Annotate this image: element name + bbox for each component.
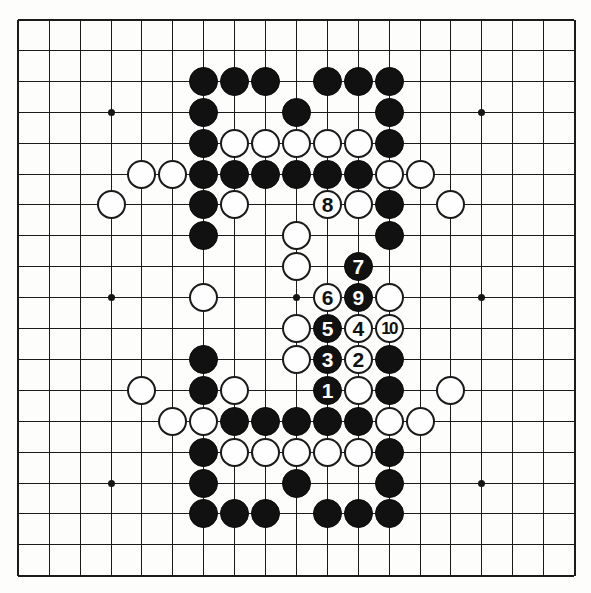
numbered-stone-7[interactable]: 7 bbox=[344, 252, 373, 281]
stone-black[interactable] bbox=[313, 499, 342, 528]
stone-black[interactable] bbox=[344, 160, 373, 189]
stone-black[interactable] bbox=[375, 345, 404, 374]
stone-black[interactable] bbox=[189, 376, 218, 405]
stone-black[interactable] bbox=[189, 129, 218, 158]
stone-white[interactable] bbox=[251, 129, 280, 158]
stone-white[interactable] bbox=[251, 438, 280, 467]
stone-white[interactable] bbox=[406, 407, 435, 436]
stone-white[interactable] bbox=[282, 314, 311, 343]
numbered-stone-6[interactable]: 6 bbox=[313, 283, 342, 312]
stone-white[interactable] bbox=[282, 252, 311, 281]
stone-white[interactable] bbox=[436, 376, 465, 405]
stone-black[interactable] bbox=[189, 190, 218, 219]
grid-line-vertical-15 bbox=[450, 20, 451, 576]
stone-black[interactable] bbox=[220, 160, 249, 189]
stone-white[interactable] bbox=[313, 129, 342, 158]
stone-black[interactable] bbox=[282, 407, 311, 436]
stone-black[interactable] bbox=[375, 98, 404, 127]
stone-white[interactable] bbox=[282, 438, 311, 467]
stone-black[interactable] bbox=[251, 160, 280, 189]
stone-black[interactable] bbox=[189, 67, 218, 96]
numbered-stone-5[interactable]: 5 bbox=[313, 314, 342, 343]
stone-white[interactable] bbox=[406, 160, 435, 189]
stone-white[interactable] bbox=[344, 376, 373, 405]
stone-black[interactable] bbox=[189, 345, 218, 374]
stone-white[interactable] bbox=[282, 129, 311, 158]
numbered-stone-8[interactable]: 8 bbox=[313, 190, 342, 219]
stone-white[interactable] bbox=[220, 190, 249, 219]
stone-black[interactable] bbox=[220, 67, 249, 96]
stone-black[interactable] bbox=[313, 407, 342, 436]
stone-number-label: 9 bbox=[353, 287, 364, 308]
stone-black[interactable] bbox=[375, 221, 404, 250]
stone-black[interactable] bbox=[282, 160, 311, 189]
stone-black[interactable] bbox=[375, 438, 404, 467]
stone-white[interactable] bbox=[97, 190, 126, 219]
stone-white[interactable] bbox=[127, 160, 156, 189]
numbered-stone-9[interactable]: 9 bbox=[344, 283, 373, 312]
star-point bbox=[108, 480, 115, 487]
numbered-stone-1[interactable]: 1 bbox=[313, 376, 342, 405]
stone-white[interactable] bbox=[313, 438, 342, 467]
star-point bbox=[478, 109, 485, 116]
stone-white[interactable] bbox=[436, 190, 465, 219]
grid-line-vertical-19 bbox=[574, 20, 576, 576]
stone-black[interactable] bbox=[251, 499, 280, 528]
numbered-stone-2[interactable]: 2 bbox=[344, 345, 373, 374]
stone-black[interactable] bbox=[189, 160, 218, 189]
stone-black[interactable] bbox=[220, 407, 249, 436]
stone-black[interactable] bbox=[313, 160, 342, 189]
stone-black[interactable] bbox=[189, 499, 218, 528]
stone-white[interactable] bbox=[158, 407, 187, 436]
stone-black[interactable] bbox=[344, 407, 373, 436]
stone-black[interactable] bbox=[375, 499, 404, 528]
stone-black[interactable] bbox=[251, 67, 280, 96]
stone-number-label: 10 bbox=[381, 320, 397, 337]
goban-grid[interactable]: 87695410321 bbox=[0, 0, 591, 593]
stone-black[interactable] bbox=[375, 469, 404, 498]
stone-black[interactable] bbox=[375, 67, 404, 96]
stone-white[interactable] bbox=[282, 221, 311, 250]
stone-number-label: 2 bbox=[353, 349, 364, 370]
grid-line-vertical-8 bbox=[234, 20, 235, 576]
numbered-stone-4[interactable]: 4 bbox=[344, 314, 373, 343]
stone-black[interactable] bbox=[189, 438, 218, 467]
stone-black[interactable] bbox=[344, 67, 373, 96]
stone-white[interactable] bbox=[375, 407, 404, 436]
star-point bbox=[108, 294, 115, 301]
stone-black[interactable] bbox=[344, 499, 373, 528]
stone-number-label: 7 bbox=[353, 256, 364, 277]
stone-number-label: 5 bbox=[322, 318, 333, 339]
go-board-diagram: 87695410321 bbox=[0, 0, 591, 593]
stone-black[interactable] bbox=[189, 98, 218, 127]
stone-black[interactable] bbox=[282, 469, 311, 498]
grid-line-vertical-6 bbox=[172, 20, 173, 576]
stone-white[interactable] bbox=[220, 438, 249, 467]
stone-white[interactable] bbox=[282, 345, 311, 374]
stone-white[interactable] bbox=[220, 129, 249, 158]
stone-number-label: 1 bbox=[322, 380, 333, 401]
stone-black[interactable] bbox=[251, 407, 280, 436]
numbered-stone-10[interactable]: 10 bbox=[375, 314, 404, 343]
stone-black[interactable] bbox=[189, 469, 218, 498]
numbered-stone-3[interactable]: 3 bbox=[313, 345, 342, 374]
stone-black[interactable] bbox=[375, 376, 404, 405]
stone-white[interactable] bbox=[220, 376, 249, 405]
stone-white[interactable] bbox=[189, 283, 218, 312]
star-point bbox=[293, 294, 300, 301]
stone-white[interactable] bbox=[189, 407, 218, 436]
stone-white[interactable] bbox=[158, 160, 187, 189]
stone-white[interactable] bbox=[375, 283, 404, 312]
stone-white[interactable] bbox=[375, 160, 404, 189]
stone-black[interactable] bbox=[282, 98, 311, 127]
stone-black[interactable] bbox=[375, 129, 404, 158]
stone-white[interactable] bbox=[127, 376, 156, 405]
grid-line-vertical-2 bbox=[49, 20, 50, 576]
stone-black[interactable] bbox=[313, 67, 342, 96]
stone-white[interactable] bbox=[344, 438, 373, 467]
stone-black[interactable] bbox=[189, 221, 218, 250]
stone-black[interactable] bbox=[375, 190, 404, 219]
stone-white[interactable] bbox=[344, 190, 373, 219]
stone-black[interactable] bbox=[220, 499, 249, 528]
stone-white[interactable] bbox=[344, 129, 373, 158]
